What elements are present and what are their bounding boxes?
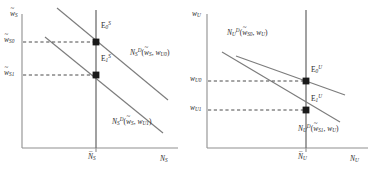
x-axis-label-skilled: NS xyxy=(160,155,168,163)
demand-curve-label-unskilled-1: NUD(~wS1, wU) xyxy=(298,124,339,133)
supply-axis-label-skilled: –NS xyxy=(88,153,96,161)
equilibrium-label-unskilled-0: E0U xyxy=(311,65,322,74)
wage-label-unskilled-1: wU1 xyxy=(190,104,202,112)
panel-unskilled-graphics xyxy=(190,0,377,178)
demand-curve-label-skilled-0: NSD(~wS, wU0) xyxy=(130,48,169,57)
economics-figure: ~wS ~wS0 ~wS1 E0S E1S NSD(~wS, wU0) NSD(… xyxy=(0,0,377,178)
y-axis-label-unskilled: wU xyxy=(192,10,201,18)
equilibrium-label-skilled-1: E1S xyxy=(101,54,111,63)
equilibrium-label-unskilled-1: E1U xyxy=(311,94,322,103)
wage-label-skilled-0: ~wS0 xyxy=(4,36,14,44)
equilibrium-marker-unskilled-0 xyxy=(303,78,310,85)
supply-axis-label-unskilled: –NU xyxy=(298,153,307,161)
panel-unskilled-labor-market: wU wU0 wU1 E0U E1U NUD(~wS0, wU) NUD(~wS… xyxy=(190,0,377,178)
demand-curve-label-skilled-1: NSD(~wS, wU1) xyxy=(112,117,151,126)
wage-label-skilled-1: ~wS1 xyxy=(4,69,14,77)
demand-curve-label-unskilled-0: NUD(~wS0, wU) xyxy=(227,28,268,37)
y-axis-label-skilled: ~wS xyxy=(10,10,18,18)
wage-label-unskilled-0: wU0 xyxy=(190,75,202,83)
equilibrium-marker-skilled-0 xyxy=(93,39,100,46)
equilibrium-label-skilled-0: E0S xyxy=(101,21,111,30)
equilibrium-marker-unskilled-1 xyxy=(303,107,310,114)
x-axis-label-unskilled: NU xyxy=(350,155,359,163)
equilibrium-marker-skilled-1 xyxy=(93,72,100,79)
panel-skilled-graphics xyxy=(0,0,190,178)
demand-curve-unskilled-0 xyxy=(236,56,345,95)
panel-skilled-labor-market: ~wS ~wS0 ~wS1 E0S E1S NSD(~wS, wU0) NSD(… xyxy=(0,0,190,178)
